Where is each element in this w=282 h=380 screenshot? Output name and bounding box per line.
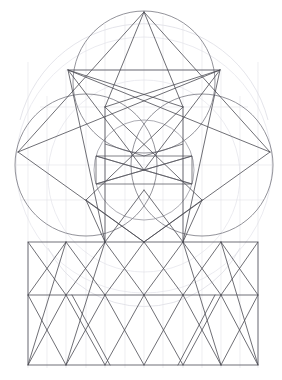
geometry-svg: [0, 0, 282, 380]
geometric-figure-canvas: Geometric Construction Diagram Compass-a…: [0, 0, 282, 380]
